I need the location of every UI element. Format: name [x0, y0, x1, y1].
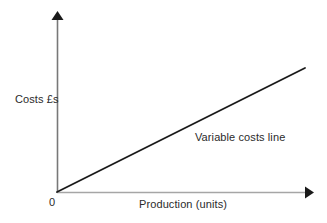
origin-label: 0 [49, 196, 55, 209]
series-annotation-label: Variable costs line [195, 131, 285, 144]
y-axis-arrow-icon [52, 11, 64, 20]
x-axis-label: Production (units) [139, 198, 227, 211]
y-axis-label: Costs £s [15, 93, 59, 106]
x-axis-arrow-icon [305, 187, 314, 199]
chart-canvas [0, 0, 327, 223]
variable-costs-diagram: Costs £s Production (units) Variable cos… [0, 0, 327, 223]
variable-costs-line [57, 68, 305, 192]
